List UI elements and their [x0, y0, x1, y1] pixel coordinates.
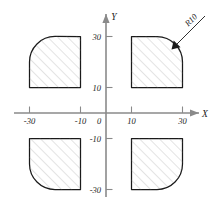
radius-annotation: R10 [172, 11, 206, 50]
y-tick-label: -30 [90, 185, 102, 195]
x-axis-label: X [201, 109, 209, 119]
y-axis: Y [102, 12, 118, 197]
figure-root: X Y -30 -10 10 30 0 [0, 0, 218, 210]
x-tick-label: -10 [75, 116, 87, 126]
origin-label: 0 [97, 116, 102, 126]
x-tick-label: 10 [127, 116, 136, 126]
coordinate-diagram: X Y -30 -10 10 30 0 [0, 0, 218, 210]
y-tick-label: -10 [90, 134, 102, 144]
radius-label: R10 [182, 11, 200, 29]
bottom-right-square-hatch [132, 139, 183, 190]
shape-bottom-left-square [30, 139, 81, 190]
x-tick-label: -30 [24, 116, 36, 126]
y-tick-label: 30 [92, 32, 102, 42]
bottom-left-square-hatch [30, 139, 81, 190]
y-tick-label: 10 [93, 83, 102, 93]
y-axis-label: Y [111, 12, 118, 22]
shape-bottom-right-square [132, 139, 183, 190]
shape-top-left-square [30, 37, 81, 88]
y-axis-arrowhead [102, 14, 109, 23]
x-tick-label: 30 [177, 116, 187, 126]
top-left-square-hatch [30, 37, 81, 88]
x-axis-arrowhead [190, 109, 199, 116]
